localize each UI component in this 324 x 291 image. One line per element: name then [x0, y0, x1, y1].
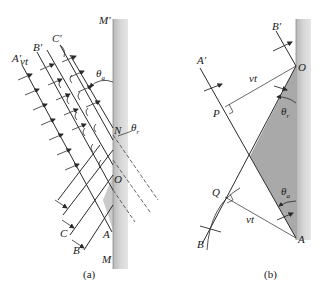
panel-a: M′ M A′ B′ C′ vt θa N θr O C A B (a)	[11, 14, 158, 281]
label-p: P	[212, 107, 220, 119]
label-a-b: A	[297, 233, 305, 245]
label-mirror-top: M′	[98, 14, 111, 26]
mirror-b	[296, 19, 311, 240]
label-o-b: O	[298, 61, 306, 73]
label-o-a: O	[114, 173, 122, 185]
caption-b: (b)	[264, 268, 277, 281]
label-vt-top: vt	[249, 72, 258, 84]
shaded-wedge-a	[103, 175, 113, 230]
label-b-prime-b: B′	[272, 20, 282, 32]
reflection-diagram: M′ M A′ B′ C′ vt θa N θr O C A B (a)	[0, 0, 324, 291]
label-b: B	[73, 244, 80, 256]
label-c-prime: C′	[52, 32, 62, 44]
panel-b: B′ A′ O vt P θr Q θa vt A B (b)	[196, 19, 311, 281]
mirror-a	[113, 19, 128, 269]
label-vt-bottom: vt	[246, 213, 255, 225]
label-theta-r: θr	[131, 121, 139, 136]
label-mirror-bottom: M	[101, 253, 112, 265]
right-angle-p	[229, 104, 233, 114]
shaded-triangle	[250, 66, 296, 238]
label-vt-a: vt	[20, 55, 29, 67]
caption-a: (a)	[83, 268, 96, 281]
label-c: C	[60, 227, 68, 239]
label-q: Q	[212, 186, 220, 198]
label-b-prime: B′	[33, 41, 43, 53]
label-n: N	[113, 124, 122, 136]
label-a-prime-b: A′	[196, 54, 207, 66]
label-a: A	[102, 228, 110, 240]
label-b-b: B	[197, 238, 204, 250]
label-theta-a: θa	[96, 67, 105, 82]
